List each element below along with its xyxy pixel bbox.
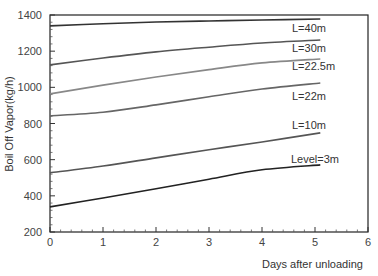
y-tick-label: 800 <box>24 118 42 130</box>
y-axis-label: Boil Off Vapor(kg/h) <box>3 76 15 172</box>
y-tick-label: 600 <box>24 154 42 166</box>
series-label: L=22.5m <box>292 60 335 72</box>
series-label: L=40m <box>292 22 326 34</box>
x-tick-label: 0 <box>47 236 53 248</box>
series-label: L=22m <box>292 90 326 102</box>
series-line-l-22-5m <box>50 59 320 94</box>
series-line-level-3m <box>50 165 320 207</box>
series-label: L=30m <box>292 42 326 54</box>
x-tick-label: 4 <box>259 236 265 248</box>
series-label: Level=3m <box>291 153 339 165</box>
x-tick-label: 2 <box>153 236 159 248</box>
x-tick-label: 6 <box>365 236 371 248</box>
series-label: L=10m <box>292 119 326 131</box>
series-labels: L=40mL=30mL=22.5mL=22mL=10mLevel=3m <box>291 22 339 165</box>
y-tick-label: 1000 <box>18 81 42 93</box>
y-tick-label: 200 <box>24 226 42 238</box>
x-axis-label: Days after unloading <box>262 258 363 270</box>
series-lines <box>50 19 320 207</box>
y-tick-label: 1200 <box>18 45 42 57</box>
y-tick-label: 1400 <box>18 9 42 21</box>
series-line-l-10m <box>50 133 320 173</box>
y-tick-label: 400 <box>24 190 42 202</box>
x-tick-label: 5 <box>312 236 318 248</box>
x-tick-label: 3 <box>206 236 212 248</box>
x-tick-label: 1 <box>100 236 106 248</box>
boil-off-vapor-chart: 0123456200400600800100012001400 L=40mL=3… <box>0 0 378 276</box>
series-line-l-40m <box>50 19 320 26</box>
